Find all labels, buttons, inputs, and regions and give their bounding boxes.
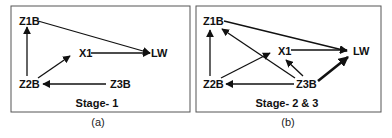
node-z3b: Z3B <box>296 78 317 90</box>
node-z3b: Z3B <box>110 78 131 90</box>
node-x1: X1 <box>278 45 291 57</box>
panel-caption: (b) <box>281 116 294 128</box>
stage-label: Stage- 2 & 3 <box>256 97 319 109</box>
stage-label: Stage- 1 <box>76 97 119 109</box>
node-z2b: Z2B <box>203 78 224 90</box>
node-lw: LW <box>353 45 370 57</box>
path-diagram: Z1B X1 LW Z2B Z3B Stage- 1 (a) Z1B X1 LW… <box>0 0 392 138</box>
node-z2b: Z2B <box>19 78 40 90</box>
panel-a: Z1B X1 LW Z2B Z3B Stage- 1 (a) <box>11 6 190 128</box>
node-z1b: Z1B <box>19 15 40 27</box>
node-x1: X1 <box>79 47 92 59</box>
node-lw: LW <box>151 47 168 59</box>
panel-caption: (a) <box>91 116 104 128</box>
node-z1b: Z1B <box>203 15 224 27</box>
panel-b: Z1B X1 LW Z2B Z3B Stage- 2 & 3 (b) <box>196 6 381 128</box>
